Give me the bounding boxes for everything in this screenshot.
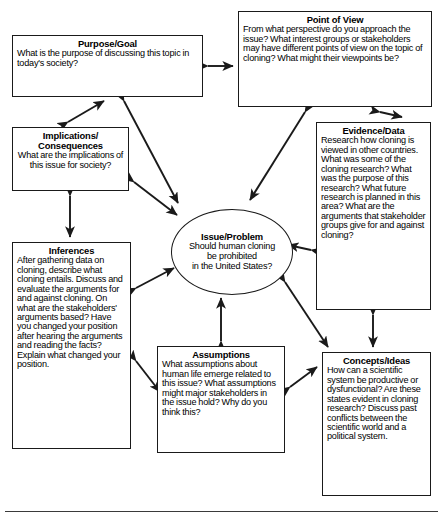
node-inferences[interactable]: Inferences After gathering data on cloni… <box>12 242 131 449</box>
node-body: Should human cloning be prohibited in th… <box>189 242 275 271</box>
node-body: How can a scientific system be productiv… <box>327 366 426 442</box>
connector-pov-evidence <box>380 112 402 117</box>
connector-pov-issue <box>250 112 305 200</box>
node-point-of-view[interactable]: Point of View From what perspective do y… <box>238 11 432 107</box>
node-body: After gathering data on cloning, describ… <box>17 256 126 369</box>
node-implications-consequences[interactable]: Implications/ Consequences What are the … <box>12 127 129 191</box>
node-title: Implications/ Consequences <box>17 131 124 151</box>
node-body: What assumptions about human life emerge… <box>162 360 280 417</box>
connector-purpose-issue <box>124 101 178 203</box>
node-concepts-ideas[interactable]: Concepts/Ideas How can a scientific syst… <box>322 352 431 496</box>
node-body: What are the implications of this issue … <box>17 151 124 170</box>
connector-inferences-issue <box>136 268 174 288</box>
footer-divider <box>5 511 438 512</box>
connector-purpose-implications <box>68 101 104 122</box>
node-evidence-data[interactable]: Evidence/Data Research how cloning is vi… <box>316 122 431 310</box>
node-body: From what perspective do you approach th… <box>243 25 427 63</box>
node-body: What is the purpose of discussing this t… <box>17 49 198 68</box>
node-assumptions[interactable]: Assumptions What assumptions about human… <box>157 346 285 453</box>
connector-implications-issue <box>134 182 177 215</box>
node-purpose-goal[interactable]: Purpose/Goal What is the purpose of disc… <box>12 35 203 97</box>
connector-assumptions-concepts <box>290 367 317 387</box>
node-body: Research how cloning is viewed in other … <box>321 136 426 240</box>
node-issue-problem[interactable]: Issue/Problem Should human cloning be pr… <box>171 209 293 295</box>
concept-map-page: Purpose/Goal What is the purpose of disc… <box>0 0 443 524</box>
